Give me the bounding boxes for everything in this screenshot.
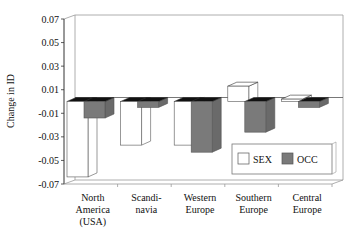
bar-occ: [245, 98, 275, 133]
y-tick-label: -0.07: [38, 179, 59, 190]
bar-front: [138, 102, 159, 108]
bar-front: [228, 86, 249, 101]
legend-shadow: [332, 142, 336, 174]
y-axis-ticks: 0.070.050.030.01-0.01-0.03-0.05-0.07: [38, 14, 64, 190]
bar-side: [212, 98, 221, 153]
legend-swatch-sex: [238, 153, 249, 164]
category-label: Southern: [236, 192, 272, 203]
legend-swatch-occ: [282, 153, 293, 164]
category-label: North: [81, 192, 104, 203]
bar-occ: [191, 98, 221, 153]
category-label: Central: [292, 192, 322, 203]
category-label: navia: [136, 204, 158, 215]
legend: SEXOCC: [232, 142, 336, 174]
floor-left: [64, 180, 75, 184]
category-label: Western: [184, 192, 217, 203]
y-tick-label: 0.01: [42, 84, 60, 95]
y-tick-label: 0.05: [42, 37, 60, 48]
bar-side: [266, 98, 275, 133]
category-label: Scandi-: [131, 192, 162, 203]
bar-front: [298, 102, 319, 108]
legend-label-occ: OCC: [297, 154, 318, 165]
chart: 0.070.050.030.01-0.01-0.03-0.05-0.07 Nor…: [0, 0, 361, 241]
category-label: Europe: [186, 204, 215, 215]
category-label: (USA): [79, 216, 106, 228]
bar-front: [245, 102, 266, 133]
category-label: Europe: [239, 204, 268, 215]
bar-front: [121, 102, 142, 146]
legend-label-sex: SEX: [253, 154, 273, 165]
y-axis-title: Change in ID: [5, 74, 16, 128]
bar-occ: [84, 98, 114, 119]
floor-right: [332, 180, 343, 184]
category-label: Europe: [293, 204, 322, 215]
y-tick-label: -0.03: [38, 131, 59, 142]
x-axis-categories: NorthAmerica(USA)Scandi-naviaWesternEuro…: [76, 184, 332, 228]
category-label: America: [76, 204, 111, 215]
y-tick-label: 0.03: [42, 61, 60, 72]
y-tick-label: 0.07: [42, 14, 60, 25]
y-tick-label: -0.05: [38, 155, 59, 166]
y-tick-label: -0.01: [38, 108, 59, 119]
bar-front: [84, 102, 105, 119]
bar-front: [191, 102, 212, 153]
